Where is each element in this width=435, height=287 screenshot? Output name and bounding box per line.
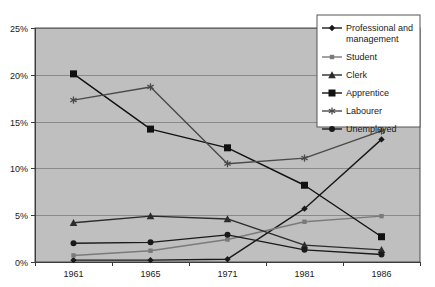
y-axis-tick-label: 15% bbox=[10, 118, 28, 128]
x-axis-tick-label: 1971 bbox=[217, 269, 237, 279]
legend-item-label: Unemployed bbox=[346, 124, 397, 134]
x-axis-tick-label: 1986 bbox=[371, 269, 391, 279]
legend-item-label-line2: management bbox=[346, 34, 399, 44]
square-large-marker bbox=[224, 144, 231, 151]
legend-item-label: Apprentice bbox=[346, 88, 389, 98]
circle-marker bbox=[71, 240, 77, 246]
y-axis-tick-label: 10% bbox=[10, 164, 28, 174]
legend-item-label: Professional and bbox=[346, 23, 413, 33]
square-small-marker bbox=[225, 237, 229, 241]
x-axis: 19611965197119811986 bbox=[35, 262, 421, 279]
square-large-marker bbox=[147, 126, 154, 133]
y-axis-tick-label: 0% bbox=[15, 258, 28, 268]
y-axis-tick-label: 5% bbox=[15, 211, 28, 221]
y-axis-tick-label: 20% bbox=[10, 71, 28, 81]
square-small-marker bbox=[302, 220, 306, 224]
x-axis-tick-label: 1961 bbox=[63, 269, 83, 279]
line-chart: 0%5%10%15%20%25% 19611965197119811986 Pr… bbox=[0, 0, 435, 287]
x-axis-tick-label: 1981 bbox=[294, 269, 314, 279]
legend-item-label: Student bbox=[346, 52, 378, 62]
square-small-marker bbox=[148, 249, 152, 253]
legend-item-label: Labourer bbox=[346, 106, 382, 116]
square-large-marker bbox=[378, 233, 385, 240]
y-axis-tick-label: 25% bbox=[10, 24, 28, 34]
square-small-marker bbox=[330, 55, 334, 59]
chart-legend: Professional andmanagementStudentClerkAp… bbox=[317, 15, 420, 134]
circle-marker bbox=[329, 126, 335, 132]
chart-canvas: 0%5%10%15%20%25% 19611965197119811986 Pr… bbox=[0, 0, 435, 287]
circle-marker bbox=[148, 239, 154, 245]
x-axis-tick-label: 1965 bbox=[140, 269, 160, 279]
square-small-marker bbox=[379, 214, 383, 218]
legend-item-label: Clerk bbox=[346, 70, 368, 80]
square-large-marker bbox=[301, 182, 308, 189]
circle-marker bbox=[225, 232, 231, 238]
y-axis: 0%5%10%15%20%25% bbox=[10, 24, 36, 268]
square-large-marker bbox=[329, 90, 336, 97]
square-large-marker bbox=[70, 70, 77, 77]
circle-marker bbox=[302, 247, 308, 253]
circle-marker bbox=[379, 252, 385, 258]
square-small-marker bbox=[71, 253, 75, 257]
